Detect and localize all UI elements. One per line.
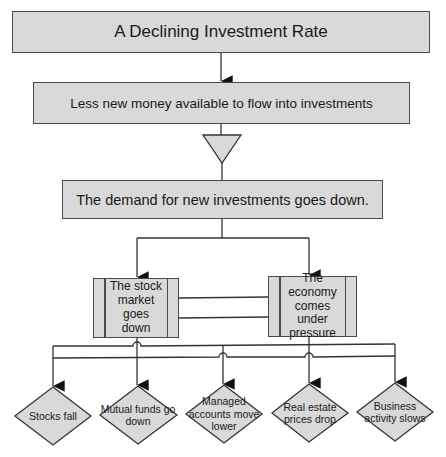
step-declining-investment-rate: A Declining Investment Rate [12,11,430,53]
outcome-label-real-estate: Real estate prices drop [272,384,348,442]
step-label: A Declining Investment Rate [114,22,328,42]
outcome-label-business-activity: Business activity slows [357,383,433,441]
process-label: The stock market goes down [94,280,178,335]
step-demand-goes-down: The demand for new investments goes down… [62,180,383,219]
process-label: The economy comes under pressure [269,272,356,341]
process-economy-pressure: The economy comes under pressure [268,276,357,337]
process-stock-market-down: The stock market goes down [93,278,179,338]
step-label: The demand for new investments goes down… [76,192,369,208]
step-less-new-money: Less new money available to flow into in… [33,82,410,124]
outcome-label-managed-accounts: Managed accounts move lower [186,385,262,443]
outcome-label-mutual-funds: Mutual funds go down [100,386,176,444]
step-label: Less new money available to flow into in… [70,96,372,111]
merge-triangle-icon [203,135,241,163]
outcome-label-stocks-fall: Stocks fall [15,387,91,445]
